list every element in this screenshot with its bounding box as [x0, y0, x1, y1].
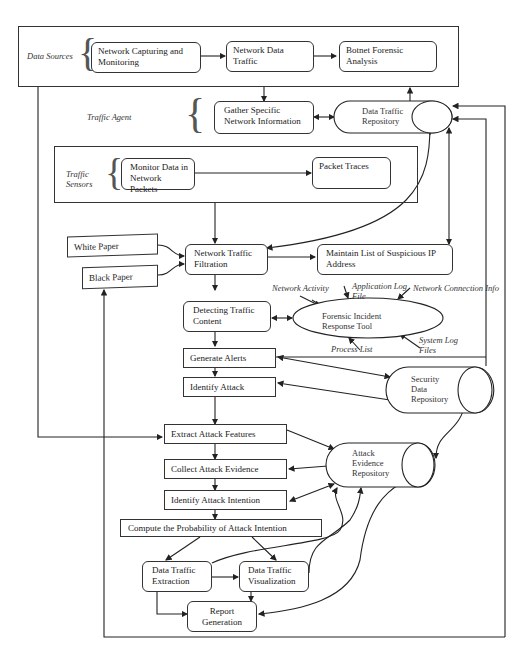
black-paper-node: Black Paper [82, 265, 158, 290]
forensic-tool-label: Forensic Incident Response Tool [322, 311, 414, 331]
compute-probability-node: Compute the Probability of Attack Intent… [120, 519, 322, 537]
attack-evidence-repo-label: Attack Evidence Repository [352, 448, 397, 478]
identify-attack-node: Identify Attack [183, 377, 276, 397]
traffic-sensors-label: Traffic Sensors [66, 169, 96, 189]
traffic-agent-label: Traffic Agent [87, 112, 131, 122]
security-repo-label: Security Data Repository [411, 374, 451, 404]
botnet-forensic-node: Botnet Forensic Analysis [339, 41, 437, 72]
white-paper-node: White Paper [67, 233, 158, 257]
network-activity-label: Network Activity [272, 283, 329, 293]
data-traffic-repository-label: Data Traffic Repository [362, 106, 412, 126]
gather-specific-node: Gather Specific Network Information [214, 101, 314, 134]
collect-evidence-node: Collect Attack Evidence [164, 459, 287, 479]
application-log-label: Application Log File [352, 281, 408, 301]
brace-icon: { [185, 89, 205, 137]
data-visualization-node: Data Traffic Visualization [239, 561, 309, 592]
monitor-data-node: Monitor Data in Network Packets [121, 158, 195, 190]
packet-traces-node: Packet Traces [312, 157, 391, 189]
process-list-label: Process List [331, 344, 372, 354]
network-connection-label: Network Connection Info [413, 283, 503, 293]
maintain-list-node: Maintain List of Suspicious IP Address [317, 244, 453, 275]
extract-features-node: Extract Attack Features [164, 424, 287, 444]
data-sources-label: Data Sources [27, 51, 73, 61]
generate-alerts-node: Generate Alerts [183, 348, 276, 368]
network-data-traffic-node: Network Data Traffic [226, 41, 314, 72]
data-extraction-node: Data Traffic Extraction [142, 561, 212, 592]
network-capturing-node: Network Capturing and Monitoring [91, 42, 201, 73]
report-generation-node: Report Generation [187, 601, 257, 632]
system-log-label: System Log Files [419, 335, 461, 355]
detecting-traffic-node: Detecting Traffic Content [183, 301, 271, 332]
identify-intention-node: Identify Attack Intention [164, 490, 287, 510]
network-traffic-filtration-node: Network Traffic Filtration [185, 244, 268, 275]
